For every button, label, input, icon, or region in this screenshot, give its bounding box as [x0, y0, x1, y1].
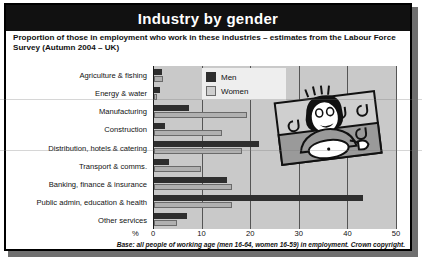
- bar-men: [154, 141, 259, 147]
- title-bar: Industry by gender: [6, 5, 410, 31]
- bar-men: [154, 177, 227, 183]
- x-tick-label-0: 0: [151, 229, 155, 238]
- bar-men: [154, 213, 187, 219]
- x-tick-label-30: 30: [295, 229, 303, 238]
- bar-women: [154, 220, 177, 226]
- x-tick-label-20: 20: [246, 229, 254, 238]
- category-label: Banking, finance & insurance: [49, 179, 147, 188]
- category-label: Transport & comms.: [79, 161, 147, 170]
- bar-women: [154, 130, 222, 136]
- bar-women: [154, 76, 163, 82]
- category-label: Other services: [98, 215, 147, 224]
- legend-swatch-men-icon: [206, 72, 216, 82]
- category-label: Public admin, education & health: [36, 197, 147, 206]
- chart-subtitle: Proportion of those in employment who wo…: [13, 33, 405, 53]
- dj-character-illustration-icon: [264, 77, 392, 173]
- category-label: Agriculture & fishing: [79, 71, 147, 80]
- bar-men: [154, 123, 165, 129]
- x-tick-label-50: 50: [392, 229, 400, 238]
- legend-label-men: Men: [221, 73, 237, 82]
- bar-men: [154, 159, 169, 165]
- bar-men: [154, 87, 160, 93]
- x-tick-label-10: 10: [197, 229, 205, 238]
- bar-women: [154, 202, 232, 208]
- category-label: Construction: [104, 125, 147, 134]
- legend-label-women: Women: [221, 87, 248, 96]
- bar-men: [154, 195, 363, 201]
- bar-men: [154, 105, 189, 111]
- category-label-column: Agriculture & fishingEnergy & waterManuf…: [6, 66, 151, 229]
- bar-women: [154, 166, 201, 172]
- scanline-artifact: [0, 150, 422, 151]
- bar-women: [154, 112, 247, 118]
- x-tick-label-40: 40: [343, 229, 351, 238]
- legend-swatch-women-icon: [206, 86, 216, 96]
- page-title: Industry by gender: [138, 10, 278, 27]
- category-label: Energy & water: [95, 89, 147, 98]
- screenshot-root: Industry by gender Proportion of those i…: [0, 0, 422, 260]
- bar-women: [154, 184, 232, 190]
- category-label: Manufacturing: [99, 107, 147, 116]
- chart-card: Industry by gender Proportion of those i…: [4, 3, 412, 251]
- scanline-artifact: [0, 99, 422, 100]
- x-axis-ticks: 01020304050: [6, 229, 422, 241]
- chart-footnote: Base: all people of working age (men 16-…: [13, 241, 405, 248]
- bar-men: [154, 69, 162, 75]
